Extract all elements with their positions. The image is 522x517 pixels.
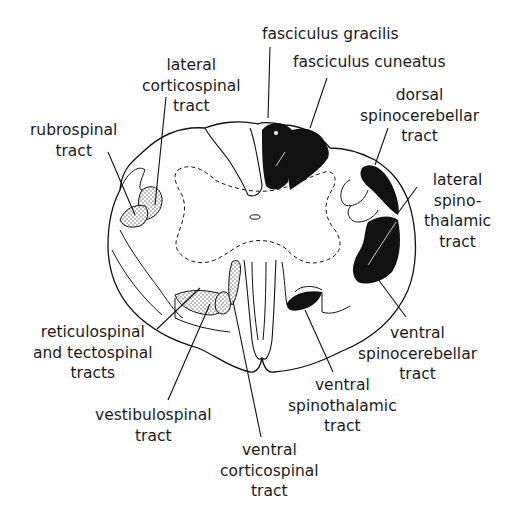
label-lateral-corticospinal: lateral corticospinal tract (142, 55, 241, 117)
label-vestibulospinal: vestibulospinal tract (95, 405, 211, 446)
label-reticulospinal-tectospinal: reticulospinal and tectospinal tracts (33, 322, 153, 384)
vestibulospinal-region (215, 292, 230, 314)
label-ventral-spinocerebellar: ventral spinocerebellar tract (358, 323, 477, 385)
label-lateral-spinothalamic: lateral spino- thalamic tract (424, 170, 491, 252)
label-ventral-corticospinal: ventral corticospinal tract (220, 440, 319, 502)
label-rubrospinal: rubrospinal tract (30, 120, 117, 161)
label-fasciculus-cuneatus: fasciculus cuneatus (293, 52, 446, 73)
label-dorsal-spinocerebellar: dorsal spinocerebellar tract (360, 85, 479, 147)
label-fasciculus-gracilis: fasciculus gracilis (262, 24, 399, 45)
